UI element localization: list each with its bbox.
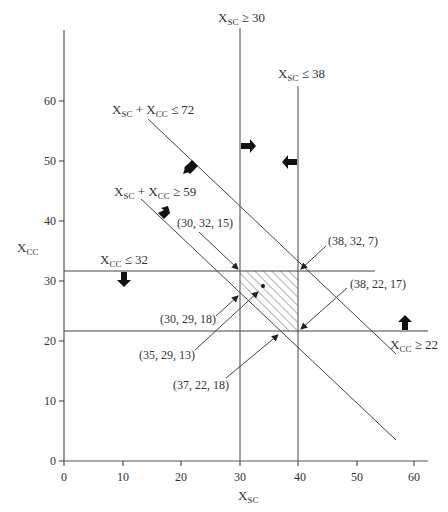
arrow-up-icon	[398, 315, 412, 330]
constraint-xsc-ge-30: XSC ≥ 30	[218, 10, 265, 461]
constraint-sum-le-72: XSC + XCC ≤ 72	[112, 102, 396, 354]
constraint-label-xcc-ge-22: XCC ≥ 22	[390, 337, 438, 354]
linear-programming-feasible-region-diagram: 0 10 20 30 40 50 60 XCC 0 10 20 30 40 50…	[0, 0, 448, 512]
arrow-left-icon	[282, 155, 297, 169]
y-tick-50: 50	[44, 154, 56, 168]
point-label: (38, 32, 7)	[328, 234, 378, 248]
x-tick-40: 40	[294, 470, 306, 484]
constraint-label-xsc-ge-30: XSC ≥ 30	[218, 10, 265, 27]
point-37-22-18: (37, 22, 18)	[173, 335, 278, 392]
point-label: (35, 29, 13)	[139, 348, 195, 362]
y-tick-40: 40	[44, 214, 56, 228]
y-tick-30: 30	[44, 274, 56, 288]
point-38-32-7: (38, 32, 7)	[301, 234, 378, 269]
x-axis-ticks	[64, 461, 414, 466]
point-label: (38, 22, 17)	[350, 277, 406, 291]
constraint-xcc-ge-22: XCC ≥ 22	[64, 315, 438, 354]
constraint-label-sum-le-72: XSC + XCC ≤ 72	[112, 102, 194, 119]
constraint-xcc-le-32: XCC ≤ 32	[64, 252, 375, 287]
x-axis-label: XSC	[238, 488, 258, 505]
constraint-label-sum-ge-59: XSC + XCC ≥ 59	[114, 184, 196, 201]
constraint-label-xcc-le-32: XCC ≤ 32	[100, 252, 148, 269]
point-label: (37, 22, 18)	[173, 378, 229, 392]
y-tick-0: 0	[50, 454, 56, 468]
constraint-xsc-le-38: XSC ≤ 38	[278, 66, 325, 461]
x-tick-30: 30	[234, 470, 246, 484]
point-38-22-17: (38, 22, 17)	[301, 277, 406, 329]
x-tick-50: 50	[351, 470, 363, 484]
interior-point-dot	[261, 284, 265, 288]
constraint-sum-ge-59: XSC + XCC ≥ 59	[114, 184, 396, 440]
arrow-down-icon	[117, 272, 131, 287]
point-30-32-15: (30, 32, 15)	[177, 216, 238, 269]
y-axis-ticks	[59, 101, 64, 461]
constraint-label-xsc-le-38: XSC ≤ 38	[278, 66, 325, 83]
point-label: (30, 32, 15)	[177, 216, 233, 230]
y-tick-10: 10	[44, 394, 56, 408]
y-tick-60: 60	[44, 94, 56, 108]
x-tick-0: 0	[61, 470, 67, 484]
x-tick-60: 60	[408, 470, 420, 484]
y-tick-20: 20	[44, 334, 56, 348]
y-axis-label: XCC	[17, 240, 38, 257]
x-tick-10: 10	[117, 470, 129, 484]
x-axis: 0 10 20 30 40 50 60 XSC	[61, 461, 428, 505]
y-axis: 0 10 20 30 40 50 60 XCC	[17, 30, 64, 468]
arrow-right-icon	[241, 139, 256, 153]
point-label: (30, 29, 18)	[160, 312, 216, 326]
x-tick-20: 20	[175, 470, 187, 484]
